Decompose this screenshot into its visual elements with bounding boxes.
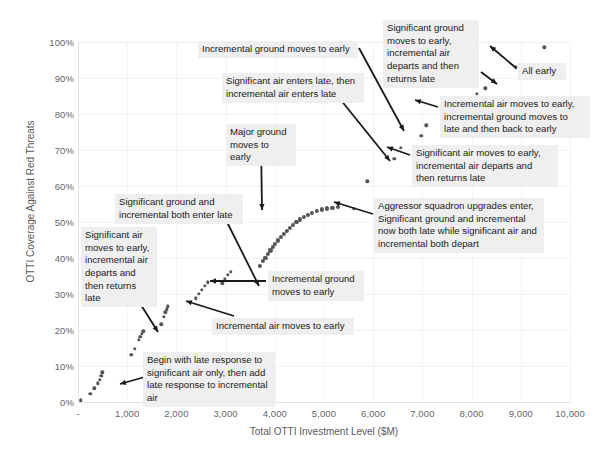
annotation-incremental-air-early: Incremental air moves to early [212,318,354,335]
annotation-begin-with-late-response: Begin with late response to significant … [143,352,275,407]
data-point [543,46,546,49]
annotation-incremental-air-early-ground-late: Incremental air moves to early, incremen… [440,96,590,138]
data-point [206,280,209,283]
y-axis-title: OTTI Coverage Against Red Threats [25,102,36,302]
data-point [226,273,229,276]
data-point [142,330,145,333]
y-tick-label: 70% [30,145,74,156]
data-point [164,311,167,314]
y-tick-label: 0% [30,397,74,408]
data-point [165,308,168,311]
annotation-aggressor-squadron-upgrades: Aggressor squadron upgrades enter, Signi… [374,198,544,253]
annotation-major-ground-early: Major ground moves to early [226,124,296,166]
scatter-chart: 0%10%20%30%40%50%60%70%80%90%100% -1,000… [0,0,604,452]
x-tick-label: 8,000 [459,408,483,419]
data-point [137,338,140,341]
data-point [129,353,132,356]
y-tick-label: 90% [30,73,74,84]
data-point [425,123,428,126]
x-tick-label: - [76,408,79,419]
annotation-incremental-ground-early-mid: Incremental ground moves to early [268,271,364,301]
x-tick-label: 6,000 [361,408,385,419]
data-point [220,281,223,284]
y-tick-label: 100% [30,37,74,48]
data-point [194,297,197,300]
data-point [393,157,396,160]
data-point [306,213,310,217]
annotation-significant-ground-incremental-late: Significant ground and incremental both … [115,194,243,224]
data-point [336,205,340,209]
data-point [399,146,402,149]
x-tick-label: 2,000 [164,408,188,419]
data-point [98,378,101,381]
y-tick-label: 40% [30,253,74,264]
x-tick-label: 4,000 [263,408,287,419]
annotation-significant-air-enters-late: Significant air enters late, then increm… [222,73,364,103]
y-tick-label: 60% [30,181,74,192]
data-point [101,370,104,373]
x-axis-tick-labels: -1,0002,0003,0004,0005,0006,0007,0008,00… [78,408,570,424]
y-tick-label: 10% [30,361,74,372]
data-point [139,335,142,338]
data-point [96,382,99,385]
y-tick-label: 50% [30,217,74,228]
data-point [475,92,478,95]
data-point [162,315,165,318]
x-tick-label: 10,000 [555,408,585,419]
data-point [99,374,102,377]
data-point [229,270,232,273]
data-point [261,259,265,263]
data-point [93,387,96,390]
x-axis-title: Total OTTI Investment Level ($M) [78,426,570,437]
data-point [133,347,136,350]
y-tick-label: 20% [30,325,74,336]
x-tick-label: 3,000 [213,408,237,419]
data-point [263,256,267,260]
x-tick-label: 9,000 [509,408,533,419]
annotation-incremental-ground-early-top: Incremental ground moves to early [198,41,358,58]
data-point [89,392,92,395]
annotation-significant-air-early-departs-returns: Significant air moves to early, incremen… [81,227,157,307]
data-point [200,288,203,291]
y-axis-line [78,42,79,402]
annotation-significant-air-early-air-departs: Significant air moves to early, incremen… [412,145,558,187]
data-point [203,284,206,287]
data-point [330,206,334,210]
data-point [319,207,323,211]
data-point [166,305,169,308]
data-point [266,252,270,256]
data-point [159,323,162,326]
y-tick-label: 80% [30,109,74,120]
data-point [257,264,261,268]
data-point [325,206,329,210]
y-tick-label: 30% [30,289,74,300]
data-point [197,292,200,295]
data-point [366,180,369,183]
annotation-all-early: All early [518,63,566,80]
x-tick-label: 1,000 [115,408,139,419]
data-point [484,87,487,90]
x-tick-label: 7,000 [410,408,434,419]
annotation-significant-ground-early-air-departs: Significant ground moves to early, incre… [383,20,479,88]
data-point [315,209,319,213]
x-tick-label: 5,000 [312,408,336,419]
data-point [268,248,272,252]
data-point [352,207,355,210]
